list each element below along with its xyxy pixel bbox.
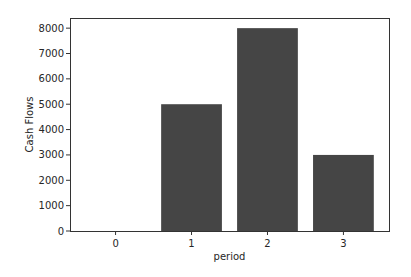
bar-period-3	[313, 155, 374, 231]
x-tick-label: 1	[188, 238, 194, 249]
y-axis-label: Cash Flows	[24, 97, 35, 153]
y-tick-label: 1000	[39, 200, 64, 211]
x-axis-ticks: 0123	[112, 231, 346, 249]
x-tick-label: 3	[340, 238, 346, 249]
bars-group	[161, 28, 374, 231]
x-tick-label: 2	[264, 238, 270, 249]
bar-period-2	[237, 28, 298, 231]
y-tick-label: 5000	[39, 99, 64, 110]
x-axis-label: period	[214, 251, 246, 262]
bar-chart: 010002000300040005000600070008000 0123 p…	[0, 0, 411, 277]
y-tick-label: 7000	[39, 48, 64, 59]
y-tick-label: 3000	[39, 149, 64, 160]
y-axis-ticks: 010002000300040005000600070008000	[39, 23, 70, 237]
bar-period-1	[161, 104, 222, 231]
y-tick-label: 6000	[39, 73, 64, 84]
y-tick-label: 4000	[39, 124, 64, 135]
y-tick-label: 0	[58, 226, 64, 237]
y-tick-label: 2000	[39, 175, 64, 186]
y-tick-label: 8000	[39, 23, 64, 34]
x-tick-label: 0	[112, 238, 118, 249]
